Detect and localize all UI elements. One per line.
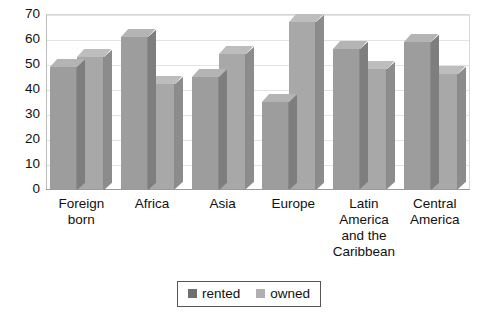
legend-swatch-owned-icon xyxy=(256,289,265,298)
bar-face xyxy=(262,102,289,190)
legend-item-owned: owned xyxy=(256,286,310,301)
x-axis-label-line: Central xyxy=(393,196,476,212)
x-axis-label-line: Caribbean xyxy=(323,244,406,260)
legend-swatch-rented-icon xyxy=(188,289,197,298)
legend-label-owned: owned xyxy=(270,286,310,301)
bar-side-face xyxy=(458,67,466,189)
bar-side-face xyxy=(246,47,254,189)
legend-item-rented: rented xyxy=(188,286,240,301)
bar-rented-3 xyxy=(262,102,289,190)
y-axis-tick-label: 40 xyxy=(6,82,40,96)
chart-legend: rented owned xyxy=(177,281,321,307)
bar-face xyxy=(192,77,219,190)
bar-side-face xyxy=(148,29,156,189)
bar-face xyxy=(121,37,148,190)
bar-side-face xyxy=(289,94,297,189)
x-axis-label-line: America xyxy=(393,212,476,228)
legend-label-rented: rented xyxy=(202,286,240,301)
bar-side-face xyxy=(104,49,112,189)
bar-rented-0 xyxy=(50,67,77,190)
bar-side-face xyxy=(219,69,227,189)
bar-side-face xyxy=(431,34,439,189)
y-axis-tick-label: 60 xyxy=(6,32,40,46)
bar-rented-4 xyxy=(333,49,360,189)
bar-side-face xyxy=(77,59,85,189)
y-axis-tick-label: 30 xyxy=(6,107,40,121)
bar-side-face xyxy=(387,62,395,189)
bar-rented-1 xyxy=(121,37,148,190)
bar-chart: 706050403020100 ForeignbornAfricaAsiaEur… xyxy=(0,0,487,318)
bar-face xyxy=(333,49,360,189)
x-axis-label-line: born xyxy=(40,212,123,228)
y-axis-tick-label: 10 xyxy=(6,157,40,171)
x-axis-label-line: and the xyxy=(323,228,406,244)
bar-rented-5 xyxy=(404,42,431,190)
bar-rented-2 xyxy=(192,77,219,190)
bar-face xyxy=(404,42,431,190)
x-axis-label-5: CentralAmerica xyxy=(393,196,476,228)
y-axis-tick-label: 70 xyxy=(6,7,40,21)
bar-face xyxy=(50,67,77,190)
x-axis-line xyxy=(46,189,470,190)
bar-side-face xyxy=(175,77,183,189)
y-axis-tick-label: 50 xyxy=(6,57,40,71)
gridline xyxy=(47,15,469,16)
y-axis-tick-label: 20 xyxy=(6,132,40,146)
y-axis-tick-label: 0 xyxy=(6,182,40,196)
bar-side-face xyxy=(316,14,324,189)
bar-side-face xyxy=(360,42,368,189)
